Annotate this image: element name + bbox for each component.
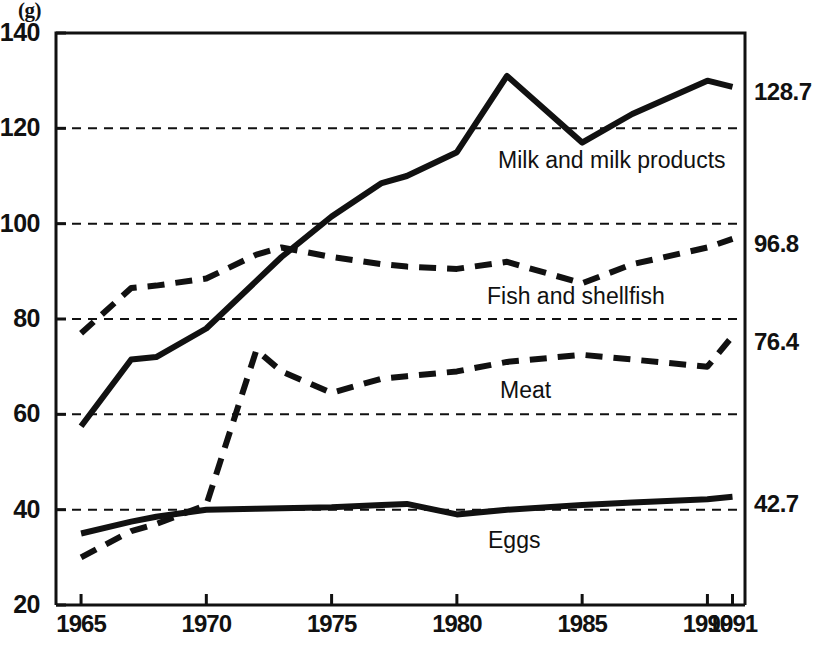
y-tick-label-40: 40 [0, 497, 40, 522]
x-tick-label-1965: 1965 [56, 612, 105, 636]
series-line-eggs [81, 497, 732, 534]
series-label-milk: Milk and milk products [498, 149, 726, 172]
end-value-label-meat: 76.4 [754, 330, 799, 354]
y-tick-label-140: 140 [0, 20, 40, 45]
chart-root: (g) 140 120 100 80 60 40 20 1965 1970 19… [0, 0, 817, 650]
series-line-meat [81, 336, 732, 557]
y-tick-label-120: 120 [0, 115, 40, 140]
y-tick-label-100: 100 [0, 211, 40, 236]
x-tick-label-1970: 1970 [182, 612, 231, 636]
series-label-meat: Meat [500, 379, 551, 402]
y-tick-label-60: 60 [0, 401, 40, 426]
x-tick-label-1985: 1985 [557, 612, 606, 636]
x-tick-label-1980: 1980 [432, 612, 481, 636]
x-tick-label-1991: 1991 [708, 612, 757, 636]
gridlines [56, 128, 745, 509]
series-label-fish: Fish and shellfish [487, 285, 665, 308]
series-label-eggs: Eggs [488, 529, 540, 552]
x-tick-label-1975: 1975 [307, 612, 356, 636]
y-tick-label-20: 20 [0, 592, 40, 617]
y-tick-label-80: 80 [0, 306, 40, 331]
end-value-label-milk: 128.7 [754, 80, 812, 104]
end-value-label-eggs: 42.7 [754, 492, 799, 516]
chart-plot-svg [0, 0, 817, 650]
end-value-label-fish: 96.8 [754, 232, 799, 256]
